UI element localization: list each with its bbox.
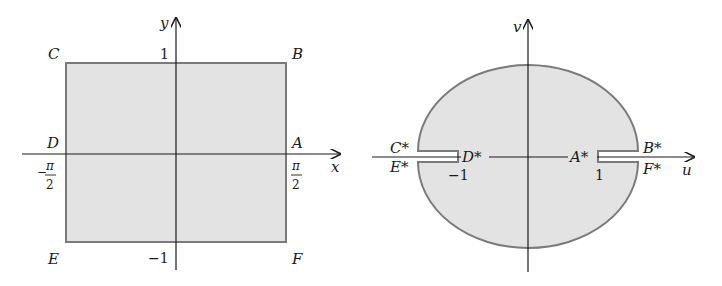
- corner-label-D: D: [46, 134, 59, 152]
- y-axis-label: y: [159, 14, 169, 32]
- tick-y-1: 1: [160, 46, 169, 62]
- v-axis-label: v: [513, 18, 522, 36]
- corner-label-F: F: [291, 250, 303, 268]
- point-label-F-star: F*: [642, 160, 661, 178]
- fraction-denominator: 2: [46, 178, 54, 192]
- left-panel-z-plane: y x 1 −1 − π 2 π 2 C B D A E F: [22, 14, 340, 270]
- point-label-C-star: C*: [390, 139, 409, 157]
- tick-y-neg1: −1: [148, 250, 169, 266]
- point-label-D-star: D*: [461, 148, 482, 166]
- right-panel-w-plane: v u −1 1 C* E* D* A* B* F*: [372, 18, 694, 272]
- tick-u-1: 1: [595, 167, 604, 183]
- tick-x-neg-pi-over-2: − π 2: [37, 159, 56, 192]
- point-label-E-star: E*: [389, 158, 409, 176]
- corner-label-C: C: [48, 45, 60, 63]
- fraction-numerator: π: [291, 159, 301, 173]
- fraction-numerator: π: [45, 159, 55, 173]
- x-axis-label: x: [331, 158, 340, 176]
- point-label-B-star: B*: [642, 139, 662, 157]
- corner-label-B: B: [291, 45, 303, 63]
- tick-x-pi-over-2: π 2: [291, 159, 302, 192]
- u-axis-label: u: [682, 161, 692, 179]
- tick-u-neg1: −1: [448, 167, 469, 183]
- corner-label-E: E: [47, 250, 59, 268]
- fraction-denominator: 2: [292, 178, 300, 192]
- conformal-mapping-diagram: y x 1 −1 − π 2 π 2 C B D A E F v: [0, 0, 722, 286]
- point-label-A-star: A*: [568, 148, 589, 166]
- corner-label-A: A: [290, 134, 303, 152]
